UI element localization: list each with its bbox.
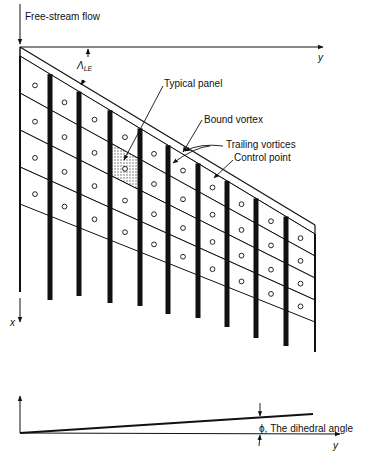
x-axis-label: x [10, 318, 15, 328]
trailing-vortex [284, 217, 289, 346]
control-point-label: Control point [234, 153, 291, 163]
control-point-icon [210, 240, 215, 245]
control-point-icon [269, 292, 274, 297]
bound-vortex-label: Bound vortex [204, 115, 263, 125]
control-point-icon [123, 166, 128, 171]
control-point-icon [152, 242, 157, 247]
vortex-lattice-figure [0, 0, 368, 463]
trailing-vortex [138, 128, 143, 306]
trailing-vortex [77, 92, 82, 296]
control-point-icon [123, 230, 128, 235]
dihedral-arrow-bottom [259, 435, 260, 446]
control-point-icon [298, 304, 303, 309]
control-point-icon [269, 243, 274, 248]
control-point-icon [33, 119, 38, 124]
control-point-icon [152, 182, 157, 187]
control-point-icon [152, 151, 157, 156]
control-point-icon [298, 258, 303, 263]
control-point-icon [92, 117, 97, 122]
control-point-icon [33, 83, 38, 88]
control-point-leader [214, 160, 233, 178]
control-point-icon [181, 254, 186, 259]
control-point-icon [210, 212, 215, 217]
control-point-icon [92, 184, 97, 189]
control-point-icon [152, 212, 157, 217]
control-point-icon [210, 267, 215, 272]
control-point-icon [269, 219, 274, 224]
sweep-subscript: LE [84, 65, 93, 72]
trailing-vortex [48, 74, 53, 300]
control-point-icon [123, 135, 128, 140]
control-point-icon [181, 197, 186, 202]
control-point-icon [33, 192, 38, 197]
control-point-icon [269, 267, 274, 272]
control-point-icon [239, 279, 244, 284]
trailing-vortex [108, 110, 113, 303]
control-point-icon [239, 202, 244, 207]
sweep-symbol: Λ [77, 60, 84, 71]
control-point-icon [181, 226, 186, 231]
y-axis-label-bottom: y [333, 441, 338, 451]
trailing-vortex [196, 163, 201, 318]
control-point-icon [33, 155, 38, 160]
control-point-icon [298, 236, 303, 241]
control-point-icon [62, 169, 67, 174]
dihedral-angle-label: ϕ, The dihedral angle [259, 424, 353, 434]
trailing-vortex [254, 198, 259, 338]
bound-vortex-leader [183, 120, 202, 152]
control-point-icon [62, 204, 67, 209]
control-point-icon [210, 185, 215, 190]
panel-lattice [19, 47, 316, 352]
y-axis-label-top: y [318, 53, 323, 63]
control-point-icon [62, 100, 67, 105]
free-stream-label: Free-stream flow [25, 12, 100, 22]
control-point-icon [298, 281, 303, 286]
trailing-vortex [225, 181, 230, 327]
control-point-icon [239, 253, 244, 258]
control-point-icon [123, 198, 128, 203]
trailing-vortex [166, 145, 171, 314]
control-point-icon [62, 135, 67, 140]
trailing-vortices-label: Trailing vortices [226, 140, 296, 150]
control-point-icon [92, 150, 97, 155]
control-point-icon [92, 217, 97, 222]
control-point-icon [239, 228, 244, 233]
sweep-angle-label: ΛLE [77, 61, 92, 71]
typical-panel-label: Typical panel [164, 79, 222, 89]
control-point-icon [181, 168, 186, 173]
